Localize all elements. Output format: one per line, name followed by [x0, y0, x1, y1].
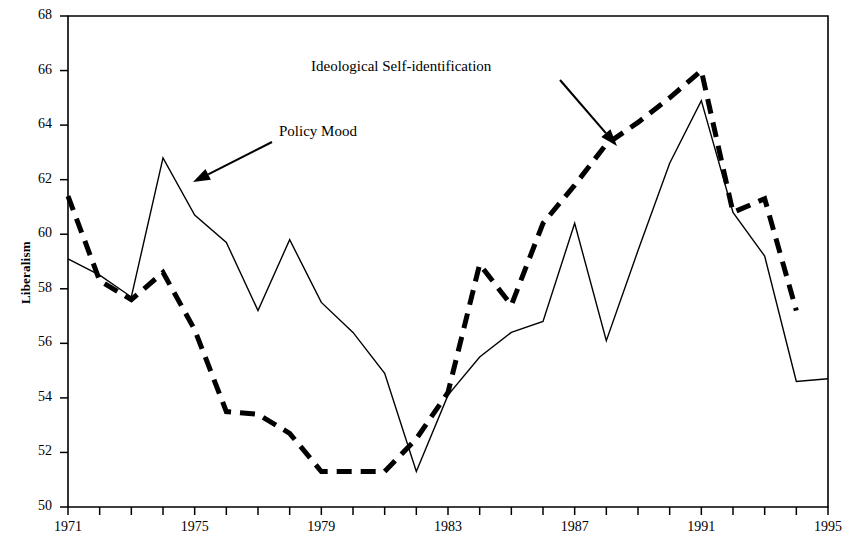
annotation-label-2: Policy Mood	[279, 123, 357, 140]
plot-area	[0, 0, 850, 549]
series-line-2	[68, 71, 796, 472]
y-tick-label: 56	[10, 334, 52, 350]
y-tick-label: 66	[10, 62, 52, 78]
y-tick-label: 64	[10, 116, 52, 132]
data-series-group	[68, 71, 828, 472]
y-tick-label: 58	[10, 280, 52, 296]
annotation-arrow-shaft-2	[208, 142, 272, 174]
y-tick-label: 52	[10, 443, 52, 459]
x-tick-label: 1975	[165, 519, 225, 535]
x-tick-label: 1991	[671, 519, 731, 535]
chart-figure: Liberalism 50525456586062646668 19711975…	[0, 0, 850, 549]
x-axis-ticks	[68, 507, 828, 515]
annotation-arrows	[193, 80, 617, 182]
x-tick-label: 1987	[545, 519, 605, 535]
x-tick-label: 1995	[798, 519, 850, 535]
y-tick-label: 62	[10, 171, 52, 187]
annotation-label-1: Ideological Self-identification	[311, 58, 491, 75]
annotation-arrow-shaft-1	[560, 80, 606, 133]
x-tick-label: 1979	[291, 519, 351, 535]
y-tick-label: 54	[10, 389, 52, 405]
y-tick-label: 60	[10, 225, 52, 241]
x-tick-label: 1983	[418, 519, 478, 535]
series-line-1	[68, 101, 828, 472]
y-axis-ticks	[60, 16, 68, 507]
y-tick-label: 68	[10, 7, 52, 23]
y-tick-label: 50	[10, 498, 52, 514]
plot-frame	[68, 16, 828, 507]
x-tick-label: 1971	[38, 519, 98, 535]
annotation-arrow-head-2	[193, 169, 211, 182]
